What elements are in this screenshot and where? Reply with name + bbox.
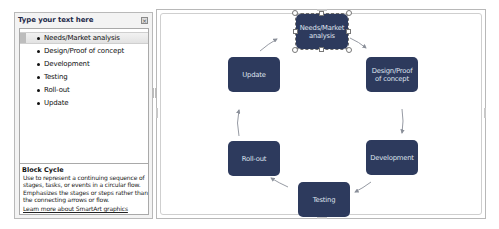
- text-pane: Type your text here × Needs/Market analy…: [14, 12, 153, 219]
- arrow-development-to-testing: [355, 182, 371, 192]
- bullet-icon: [37, 63, 40, 66]
- resize-handle-corner[interactable]: [292, 47, 298, 53]
- bullet-item-label: Development: [44, 60, 89, 68]
- close-icon[interactable]: ×: [141, 17, 148, 24]
- node-testing[interactable]: Testing: [298, 182, 350, 217]
- bullet-item-design[interactable]: Design/Proof of concept: [20, 45, 148, 57]
- resize-handle-side[interactable]: [293, 29, 298, 34]
- arrow-rollout-to-update: [238, 110, 240, 136]
- layout-description: Block Cycle Use to represent a continuin…: [19, 164, 149, 215]
- resize-handle-side[interactable]: [319, 47, 324, 52]
- arrow-testing-to-rollout: [271, 178, 288, 187]
- bullet-item-update[interactable]: Update: [20, 97, 148, 109]
- bullet-icon: [37, 102, 40, 105]
- bullet-icon: [37, 37, 40, 40]
- node-label: Needs/Market analysis: [298, 24, 346, 40]
- bullet-icon: [37, 89, 40, 92]
- resize-handle-corner[interactable]: [346, 10, 352, 16]
- node-label: Update: [230, 71, 278, 79]
- resize-handle-side[interactable]: [346, 29, 351, 34]
- node-label: Roll-out: [230, 155, 278, 163]
- node-label: Development: [368, 154, 416, 162]
- bullet-item-needs[interactable]: Needs/Market analysis: [20, 32, 148, 44]
- text-pane-title: Type your text here: [18, 16, 93, 24]
- bullet-icon: [37, 50, 40, 53]
- resize-handle-corner[interactable]: [346, 47, 352, 53]
- arrow-update-to-needs: [260, 39, 277, 51]
- node-update[interactable]: Update: [228, 57, 280, 92]
- bullet-item-label: Needs/Market analysis: [44, 34, 120, 42]
- bullet-icon: [37, 76, 40, 79]
- node-development[interactable]: Development: [366, 140, 418, 175]
- bullet-item-testing[interactable]: Testing: [20, 71, 148, 83]
- bullet-item-development[interactable]: Development: [20, 58, 148, 70]
- smartart-frame[interactable]: Needs/Market analysis Design/Proof of co…: [156, 9, 486, 219]
- resize-handle-side[interactable]: [319, 11, 324, 16]
- node-design-proof-of-concept[interactable]: Design/Proof of concept: [366, 57, 418, 92]
- node-label: Design/Proof of concept: [368, 67, 416, 83]
- arrow-needs-to-design: [350, 38, 366, 48]
- bullet-item-label: Design/Proof of concept: [44, 47, 124, 55]
- layout-description-text: Use to represent a continuing sequence o…: [23, 174, 149, 204]
- bullet-item-rollout[interactable]: Roll-out: [20, 84, 148, 96]
- arrow-design-to-development: [402, 109, 403, 133]
- bullet-item-label: Update: [44, 99, 68, 107]
- resize-handle-corner[interactable]: [292, 10, 298, 16]
- node-needs-market-analysis[interactable]: Needs/Market analysis: [296, 14, 348, 49]
- bullet-item-label: Roll-out: [44, 86, 70, 94]
- bullet-list[interactable]: Needs/Market analysis Design/Proof of co…: [19, 28, 149, 164]
- learn-more-link[interactable]: Learn more about SmartArt graphics: [23, 205, 128, 212]
- node-roll-out[interactable]: Roll-out: [228, 141, 280, 176]
- node-label: Testing: [300, 196, 348, 204]
- layout-name: Block Cycle: [22, 166, 64, 174]
- bullet-item-label: Testing: [44, 73, 68, 81]
